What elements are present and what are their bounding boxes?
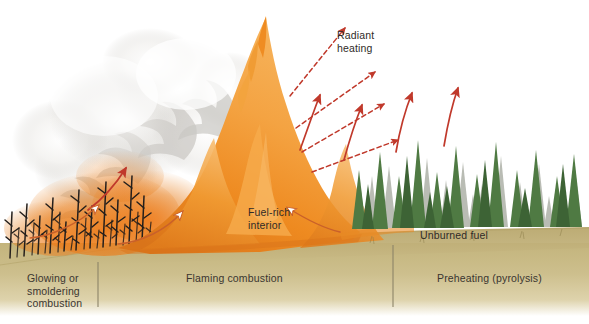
convection-arrow-5: [444, 88, 458, 146]
figure-canvas: Radiant heating Fuel-rich interior Unbur…: [0, 0, 589, 324]
annotation-unburned-fuel: Unburned fuel: [420, 229, 488, 242]
annotation-radiant-heating: Radiant heating: [337, 29, 374, 54]
radiant-dashed-2: [296, 72, 375, 128]
zone-label-preheating-pyrolysis: Preheating (pyrolysis): [437, 272, 542, 285]
convection-arrow-4: [396, 93, 412, 152]
zone-label-flaming-combustion: Flaming combustion: [186, 272, 283, 285]
convection-arrow-3: [344, 105, 362, 160]
gray-conifers: [356, 156, 582, 228]
annotation-fuel-rich-interior: Fuel-rich interior: [248, 206, 290, 231]
radiant-dashed-4: [312, 140, 398, 172]
zone-label-glowing-smoldering: Glowing or smoldering combustion: [27, 272, 82, 310]
